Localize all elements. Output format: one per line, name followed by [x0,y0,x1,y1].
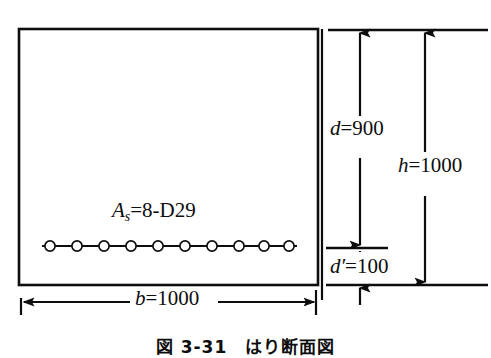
effective-depth-symbol: d [330,116,341,140]
steel-area-label: As=8-D29 [112,200,196,224]
rebar-circle [284,241,294,251]
rebar-circle [207,241,217,251]
rebar-circle [45,241,55,251]
effective-depth-value: 900 [352,116,384,140]
cover-depth-value: 100 [357,254,389,278]
width-label: b=1000 [135,288,199,309]
rebar-circle [72,241,82,251]
rebar-circle [259,241,269,251]
rebar-circle [180,241,190,251]
rebar-circle [153,241,163,251]
steel-area-symbol: A [112,198,125,222]
figure-caption: 図 3-31 はり断面図 [0,333,491,358]
cover-depth-label: d′=100 [330,256,388,277]
total-height-value: 1000 [420,153,462,177]
rebar-circle [234,241,244,251]
effective-depth-label: d=900 [330,118,384,139]
total-height-symbol: h [398,153,409,177]
total-height-equals: = [409,153,421,177]
width-symbol: b [135,286,146,310]
width-value: 1000 [157,286,199,310]
rebar-circle [126,241,136,251]
cover-depth-equals: = [345,254,357,278]
steel-area-equals: = [130,198,142,222]
effective-depth-equals: = [341,116,353,140]
cover-depth-symbol: d [330,254,341,278]
width-equals: = [146,286,158,310]
total-height-label: h=1000 [398,155,462,176]
rebar-circle [99,241,109,251]
steel-area-value: 8-D29 [142,198,196,222]
